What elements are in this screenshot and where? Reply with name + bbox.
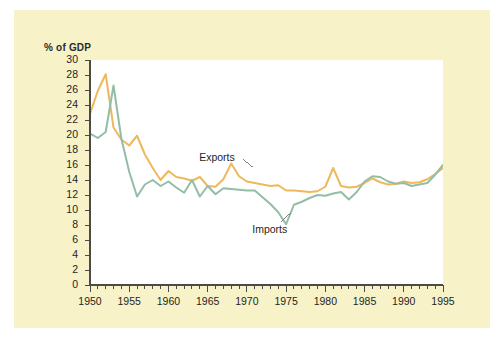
- x-tick-label: 1955: [107, 295, 151, 307]
- imports-label: Imports: [252, 223, 287, 235]
- y-tick-label: 6: [48, 233, 78, 245]
- y-tick-label: 4: [48, 248, 78, 260]
- y-tick-label: 12: [48, 188, 78, 200]
- y-tick-label: 28: [48, 68, 78, 80]
- x-tick-label: 1965: [186, 295, 230, 307]
- y-tick-label: 24: [48, 98, 78, 110]
- x-tick-label: 1970: [225, 295, 269, 307]
- chart-figure: % of GDP 024681012141618202224262830 195…: [0, 0, 504, 340]
- y-tick-label: 16: [48, 158, 78, 170]
- y-tick-label: 20: [48, 128, 78, 140]
- x-tick-label: 1980: [303, 295, 347, 307]
- y-tick-label: 18: [48, 143, 78, 155]
- x-tick-label: 1995: [421, 295, 465, 307]
- y-tick-label: 2: [48, 263, 78, 275]
- x-tick-label: 1975: [264, 295, 308, 307]
- y-tick-label: 0: [48, 278, 78, 290]
- series-line-exports: [90, 74, 443, 192]
- series-canvas: [90, 60, 443, 285]
- y-tick-label: 30: [48, 53, 78, 65]
- plot-area: [90, 60, 443, 285]
- y-tick-label: 14: [48, 173, 78, 185]
- x-tick-label: 1990: [382, 295, 426, 307]
- exports-label: Exports: [199, 151, 235, 163]
- y-tick-label: 10: [48, 203, 78, 215]
- y-tick-label: 26: [48, 83, 78, 95]
- y-tick-label: 8: [48, 218, 78, 230]
- series-line-imports: [90, 86, 443, 225]
- y-axis-title: % of GDP: [44, 42, 91, 53]
- x-tick-label: 1950: [68, 295, 112, 307]
- y-tick-label: 22: [48, 113, 78, 125]
- x-tick-label: 1985: [343, 295, 387, 307]
- x-tick-label: 1960: [146, 295, 190, 307]
